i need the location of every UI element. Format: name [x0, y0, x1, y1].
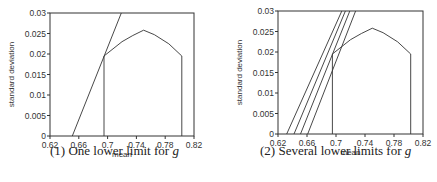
plot-frame — [50, 13, 194, 136]
chart-plot-1: 00.0050.010.0150.020.0250.030.620.660.70… — [0, 0, 220, 160]
y-tick-label: 0.03 — [29, 8, 46, 18]
y-tick-label: 0.02 — [29, 49, 46, 59]
y-tick-label: 0.01 — [29, 90, 46, 100]
chart-caption-2: (2) Several lower limits for g — [260, 143, 411, 159]
chart-panel-2: 00.0050.010.0150.020.0250.030.620.660.70… — [220, 0, 437, 182]
y-axis-label: standard deviation — [235, 40, 244, 105]
series-lower-limit-d — [308, 11, 356, 134]
y-tick-label: 0.005 — [253, 109, 275, 119]
y-tick-label: 0.005 — [25, 111, 47, 121]
chart-plot-2: 00.0050.010.0150.020.0250.030.620.660.70… — [220, 0, 437, 160]
chart-caption-1: (1) One lower limit for g — [50, 143, 179, 159]
series-lower-limit-c — [301, 11, 350, 134]
y-tick-label: 0.02 — [257, 47, 274, 57]
x-tick-label: 0.82 — [186, 140, 203, 150]
y-axis-label: standard deviation — [7, 42, 16, 107]
series-lower-limit-b — [294, 11, 345, 134]
caption-text: (2) Several lower limits for — [260, 143, 405, 158]
caption-variable: g — [405, 143, 412, 158]
series-lower-limit-a — [287, 11, 342, 134]
series-feasible-region — [332, 28, 410, 134]
y-tick-label: 0.01 — [257, 88, 274, 98]
series-feasible-region — [104, 30, 182, 136]
y-tick-label: 0.03 — [257, 6, 274, 16]
y-tick-label: 0.025 — [25, 29, 47, 39]
y-tick-label: 0.015 — [253, 68, 275, 78]
plot-frame — [278, 11, 423, 134]
caption-variable: g — [172, 143, 179, 158]
y-tick-label: 0.015 — [25, 70, 47, 80]
series-lower-limit-1 — [72, 13, 121, 136]
y-tick-label: 0.025 — [253, 27, 275, 37]
caption-text: (1) One lower limit for — [50, 143, 172, 158]
x-tick-label: 0.82 — [415, 138, 432, 148]
chart-panel-1: 00.0050.010.0150.020.0250.030.620.660.70… — [0, 0, 220, 182]
